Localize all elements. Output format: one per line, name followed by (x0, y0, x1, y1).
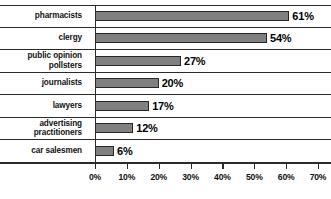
bar-chart: pharmacists61%clergy54%public opinionpol… (0, 0, 331, 199)
x-axis-tick (254, 164, 255, 169)
bar-track: 54% (95, 28, 331, 50)
bar-track: 6% (95, 140, 331, 162)
category-label: pharmacists (0, 6, 86, 27)
x-axis-tick-label: 40% (214, 172, 231, 182)
bar (95, 123, 133, 133)
x-axis-tick (95, 164, 96, 169)
category-label: lawyers (0, 95, 86, 117)
bar-value-label: 20% (162, 77, 183, 89)
x-axis-tick-label: 70% (310, 172, 327, 182)
value-axis-line (95, 5, 96, 168)
category-label-line: pharmacists (35, 11, 82, 21)
bar-value-label: 12% (136, 122, 157, 134)
x-axis-tick (222, 164, 223, 169)
chart-row: public opinionpollsters27% (0, 50, 331, 73)
x-axis-tick (127, 164, 128, 169)
category-label: clergy (0, 28, 86, 50)
chart-row: journalists20% (0, 73, 331, 96)
x-axis-tick-label: 50% (246, 172, 263, 182)
x-axis-tick (286, 164, 287, 169)
category-label-line: practitioners (34, 128, 82, 138)
chart-row: lawyers17% (0, 95, 331, 118)
category-axis-line (0, 163, 331, 164)
bar-track: 17% (95, 95, 331, 117)
x-axis-tick-label: 20% (150, 172, 167, 182)
x-axis-tick-label: 30% (182, 172, 199, 182)
bar-value-label: 61% (292, 10, 313, 22)
bar-track: 61% (95, 6, 331, 27)
bar-value-label: 27% (184, 55, 205, 67)
category-label: journalists (0, 73, 86, 95)
bar (95, 78, 159, 88)
x-axis-tick (318, 164, 319, 169)
category-label-line: car salesmen (31, 146, 82, 156)
chart-row: pharmacists61% (0, 5, 331, 28)
chart-row: car salesmen6% (0, 140, 331, 163)
chart-plot-area: pharmacists61%clergy54%public opinionpol… (0, 5, 331, 163)
category-label-line: pollsters (49, 61, 82, 71)
bar-track: 20% (95, 73, 331, 95)
x-axis-tick (191, 164, 192, 169)
category-label-line: lawyers (53, 101, 82, 111)
category-label-line: clergy (58, 33, 82, 43)
chart-row: clergy54% (0, 28, 331, 51)
bar (95, 33, 267, 43)
x-axis-tick-label: 0% (89, 172, 101, 182)
chart-row: advertisingpractitioners12% (0, 118, 331, 141)
bar-value-label: 6% (117, 145, 133, 157)
x-axis-tick-label: 60% (278, 172, 295, 182)
category-label: car salesmen (0, 140, 86, 162)
bar-track: 12% (95, 118, 331, 140)
bar-value-label: 54% (270, 32, 291, 44)
bar (95, 146, 114, 156)
x-axis-tick-label: 10% (119, 172, 136, 182)
category-label: public opinionpollsters (0, 50, 86, 72)
bar (95, 11, 289, 21)
category-label-line: advertising (39, 119, 82, 129)
bar (95, 101, 149, 111)
category-label-line: journalists (42, 78, 82, 88)
category-label: advertisingpractitioners (0, 118, 86, 140)
bar-value-label: 17% (152, 100, 173, 112)
bar (95, 56, 181, 66)
category-label-line: public opinion (27, 51, 82, 61)
x-axis-tick (159, 164, 160, 169)
bar-track: 27% (95, 50, 331, 72)
